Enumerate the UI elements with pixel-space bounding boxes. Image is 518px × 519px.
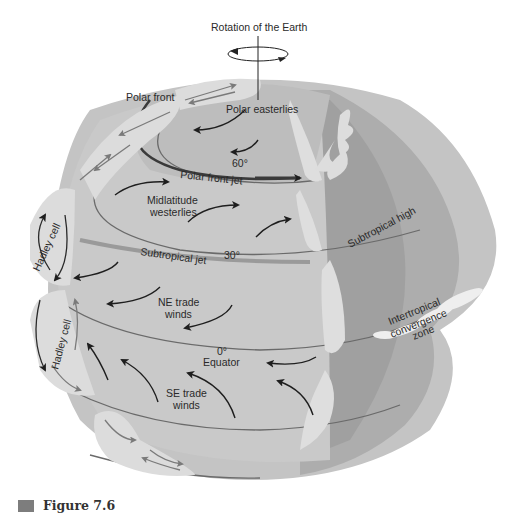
label-rotation: Rotation of the Earth <box>211 21 307 33</box>
label-lat-60: 60° <box>232 157 248 169</box>
label-midlatitude-2: westerlies <box>149 206 197 218</box>
label-ne-trade-2: winds <box>164 308 192 320</box>
label-polar-easterlies: Polar easterlies <box>226 103 298 115</box>
label-equator: Equator <box>203 356 240 368</box>
label-se-trade-1: SE trade <box>166 387 207 399</box>
caption-marker <box>18 500 34 512</box>
caption-text: Figure 7.6 <box>43 498 115 513</box>
label-lat-30: 30° <box>224 249 240 261</box>
label-polar-front: Polar front <box>126 91 175 103</box>
label-ne-trade-1: NE trade <box>158 296 200 308</box>
figure-caption: Figure 7.6 <box>18 498 115 513</box>
label-se-trade-2: winds <box>172 399 200 411</box>
global-circulation-diagram: Rotation of the Earth Polar front Polar … <box>0 0 518 519</box>
label-midlatitude-1: Midlatitude <box>147 194 198 206</box>
